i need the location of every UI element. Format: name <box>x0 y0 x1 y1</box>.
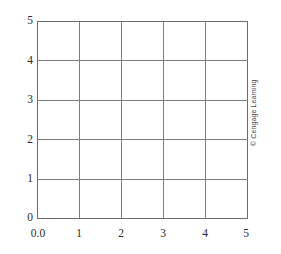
x-tick-label-1: 1 <box>59 228 99 240</box>
gridline-horizontal-3 <box>37 100 248 101</box>
x-tick-label-3: 3 <box>143 228 183 240</box>
y-axis-labels: 5 4 3 2 1 0 <box>8 0 33 254</box>
x-tick-label-2: 2 <box>101 228 141 240</box>
y-tick-label-3: 3 <box>11 94 33 106</box>
x-tick-label-0: 0.0 <box>18 228 58 240</box>
gridline-vertical-2 <box>121 21 122 219</box>
figure-canvas: 5 4 3 2 1 0 0.0 1 2 3 4 5 © Cengage Lear… <box>0 0 281 254</box>
plot-area <box>37 21 248 219</box>
gridline-vertical-1 <box>79 21 80 219</box>
gridline-vertical-4 <box>205 21 206 219</box>
gridline-horizontal-5 <box>37 21 248 22</box>
y-tick-label-1: 1 <box>11 173 33 185</box>
gridline-horizontal-0 <box>37 218 248 219</box>
y-tick-label-5: 5 <box>11 15 33 27</box>
copyright-credit: © Cengage Learning <box>248 50 260 146</box>
gridline-vertical-3 <box>163 21 164 219</box>
y-tick-label-0: 0 <box>11 212 33 224</box>
y-tick-label-2: 2 <box>11 134 33 146</box>
gridline-vertical-0 <box>37 21 38 219</box>
x-tick-label-4: 4 <box>185 228 225 240</box>
gridline-horizontal-2 <box>37 139 248 140</box>
y-tick-label-4: 4 <box>11 55 33 67</box>
x-tick-label-5: 5 <box>226 228 266 240</box>
x-axis-labels: 0.0 1 2 3 4 5 <box>0 228 281 244</box>
gridline-horizontal-4 <box>37 60 248 61</box>
gridline-horizontal-1 <box>37 179 248 180</box>
